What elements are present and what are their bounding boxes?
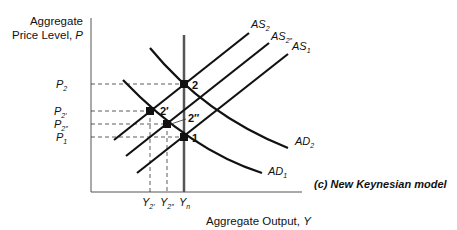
- price-label-p2dblprime: P2″: [54, 118, 68, 132]
- new-keynesian-diagram: 2 2′ 2″ 1 Aggregate Price Level, P P2 P2…: [0, 0, 457, 230]
- as2-label: AS2: [250, 18, 270, 32]
- price-label-p2: P2: [56, 78, 67, 92]
- diagram-caption: (c) New Keynesian model: [314, 178, 448, 190]
- output-label-y2dblprime: Y2″: [160, 196, 174, 210]
- x-axis-title: Aggregate Output, Y: [206, 215, 312, 227]
- point-1-marker: [180, 133, 188, 141]
- y-axis-title-line1: Aggregate: [30, 15, 83, 27]
- output-label-yn: Yn: [179, 196, 190, 210]
- output-label-y2prime: Y2′: [142, 196, 155, 210]
- dashed-guides: [91, 84, 184, 192]
- point-2-marker: [180, 80, 188, 88]
- point-2prime-label: 2′: [160, 105, 169, 117]
- ad2-label: AD2: [294, 135, 314, 149]
- point-2-label: 2: [192, 79, 198, 91]
- y-axis-title-line2: Price Level, P: [12, 29, 83, 41]
- price-label-p1: P1: [56, 131, 67, 145]
- point-2dblprime-marker: [163, 120, 171, 128]
- ad2-curve: [150, 48, 288, 148]
- point-2prime-marker: [146, 107, 154, 115]
- point-1-label: 1: [192, 132, 198, 144]
- price-label-p2prime: P2′: [54, 105, 67, 119]
- as2pp-label: AS2″: [270, 30, 293, 44]
- as1-label: AS1: [291, 40, 311, 54]
- ad1-label: AD1: [267, 165, 287, 179]
- point-2dblprime-label: 2″: [188, 112, 200, 124]
